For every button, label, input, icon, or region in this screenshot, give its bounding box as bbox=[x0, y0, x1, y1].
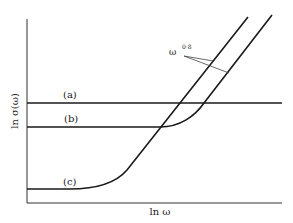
annotation-exponent: 0·8 bbox=[182, 43, 192, 50]
y-axis-label: ln σ(ω) bbox=[9, 93, 20, 129]
x-axis-label: ln ω bbox=[150, 206, 171, 217]
annotation-leader-upper bbox=[184, 56, 213, 61]
curve-b bbox=[27, 15, 272, 127]
curve-c-label: (c) bbox=[63, 176, 77, 187]
annotation-base: ω bbox=[169, 47, 176, 57]
curve-a-label: (a) bbox=[63, 89, 77, 100]
conductivity-diagram: (a) (b) (c) ω 0·8 ln σ(ω) ln ω bbox=[0, 0, 293, 223]
curve-b-label: (b) bbox=[64, 113, 78, 124]
